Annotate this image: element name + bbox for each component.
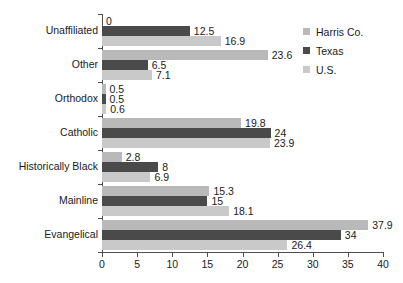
x-axis-tick bbox=[278, 253, 279, 257]
bar-value-label: 19.8 bbox=[245, 118, 265, 128]
x-axis-tick-label: 25 bbox=[263, 258, 293, 271]
x-axis-tick-label: 10 bbox=[157, 258, 187, 271]
legend-label: U.S. bbox=[316, 64, 336, 76]
category-label: Catholic bbox=[0, 127, 98, 138]
category-label: Unaffiliated bbox=[0, 25, 98, 36]
bar bbox=[102, 162, 158, 172]
bar-value-label: 23.9 bbox=[274, 138, 294, 148]
legend-label: Harris Co. bbox=[316, 26, 363, 38]
category-label: Orthodox bbox=[0, 93, 98, 104]
x-axis-tick bbox=[313, 253, 314, 257]
bar-value-label: 37.9 bbox=[372, 220, 392, 230]
bar bbox=[102, 60, 148, 70]
bar-value-label: 34 bbox=[345, 230, 357, 240]
x-axis-tick bbox=[243, 253, 244, 257]
x-axis-tick-label: 20 bbox=[228, 258, 258, 271]
x-axis-tick-label: 40 bbox=[368, 258, 398, 271]
bar-value-label: 0 bbox=[106, 16, 112, 26]
x-axis-tick-label: 0 bbox=[87, 258, 117, 271]
x-axis-tick bbox=[207, 253, 208, 257]
category-label: Mainline bbox=[0, 195, 98, 206]
bar bbox=[102, 138, 270, 148]
x-axis-tick bbox=[383, 253, 384, 257]
x-axis-tick-label: 35 bbox=[333, 258, 363, 271]
bar bbox=[102, 118, 241, 128]
bar-value-label: 0.6 bbox=[110, 104, 125, 114]
x-axis-tick-label: 30 bbox=[298, 258, 328, 271]
bar bbox=[102, 206, 229, 216]
bar bbox=[102, 36, 221, 46]
bar bbox=[102, 128, 271, 138]
legend-item: Texas bbox=[303, 41, 399, 60]
category-label: Other bbox=[0, 59, 98, 70]
bar-value-label: 18.1 bbox=[233, 206, 253, 216]
legend-item: U.S. bbox=[303, 60, 399, 79]
bar-chart: 0510152025303540 UnaffiliatedOtherOrthod… bbox=[0, 0, 403, 283]
bar-value-label: 12.5 bbox=[194, 26, 214, 36]
legend-item: Harris Co. bbox=[303, 22, 399, 41]
legend-swatch-icon bbox=[303, 28, 310, 35]
x-axis-tick bbox=[172, 253, 173, 257]
chart-legend: Harris Co.TexasU.S. bbox=[303, 22, 399, 79]
bar-value-label: 6.9 bbox=[154, 172, 169, 182]
bar bbox=[102, 70, 152, 80]
x-axis-tick bbox=[102, 253, 103, 257]
bar bbox=[102, 26, 190, 36]
bar-value-label: 23.6 bbox=[272, 50, 292, 60]
bar bbox=[102, 240, 287, 250]
bar-value-label: 2.8 bbox=[126, 152, 141, 162]
legend-swatch-icon bbox=[303, 47, 310, 54]
category-label: Evangelical bbox=[0, 229, 98, 240]
y-axis-tick bbox=[98, 252, 102, 253]
x-axis-tick bbox=[137, 253, 138, 257]
x-axis-tick-label: 5 bbox=[122, 258, 152, 271]
legend-swatch-icon bbox=[303, 66, 310, 73]
bar bbox=[102, 152, 122, 162]
bar-value-label: 16.9 bbox=[225, 36, 245, 46]
bar bbox=[102, 84, 106, 94]
bar bbox=[102, 196, 207, 206]
bar bbox=[102, 172, 150, 182]
bar bbox=[102, 104, 106, 114]
x-axis-tick-label: 15 bbox=[192, 258, 222, 271]
bar bbox=[102, 220, 368, 230]
bar-value-label: 7.1 bbox=[156, 70, 171, 80]
bar bbox=[102, 50, 268, 60]
category-label: Historically Black bbox=[0, 161, 98, 172]
legend-label: Texas bbox=[316, 45, 343, 57]
bar bbox=[102, 186, 209, 196]
bar-value-label: 26.4 bbox=[291, 240, 311, 250]
bar-value-label: 15 bbox=[211, 196, 223, 206]
x-axis-tick bbox=[348, 253, 349, 257]
bar bbox=[102, 94, 106, 104]
